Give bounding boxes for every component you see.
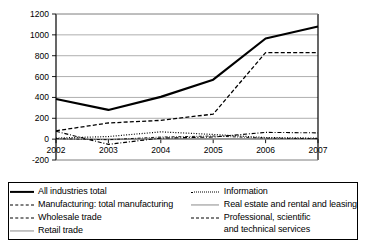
legend-label: Retail trade [38,225,83,237]
legend-swatch-gray-solid-icon [9,225,35,237]
chart-legend: All industries total Manufacturing: tota… [8,182,358,240]
legend-column-right: Information Real estate and rental and l… [190,183,357,239]
legend-item-retail-trade: Retail trade [9,225,190,238]
y-tick-label: -200 [32,155,49,165]
legend-label: All industries total [38,186,107,198]
y-tick-label: 800 [35,51,49,61]
legend-label: Manufacturing: total manufacturing [38,199,173,211]
legend-item-manufacturing: Manufacturing: total manufacturing [9,199,190,212]
legend-swatch-dotted-icon [190,186,220,198]
y-tick-label: 1200 [30,9,49,19]
x-tick-label: 2003 [99,145,118,155]
series-line [56,53,318,131]
legend-label-line2: and technical services [224,224,311,236]
x-tick-label: 2004 [151,145,170,155]
legend-label: Wholesale trade [38,212,102,224]
legend-item-information: Information [190,186,357,199]
x-tick-label: 2006 [256,145,275,155]
legend-swatch-gray-solid-icon [190,199,220,211]
data-series [56,27,318,145]
y-tick-label: 200 [35,113,49,123]
legend-swatch-dashed-icon [9,212,35,224]
legend-column-left: All industries total Manufacturing: tota… [9,183,190,239]
legend-item-all-industries-total: All industries total [9,186,190,199]
line-chart: 120010008006004002000-200 20022003200420… [0,0,372,249]
y-tick-label: 400 [35,92,49,102]
legend-swatch-dash-dot-fine-icon [9,199,35,211]
y-tick-label: 600 [35,72,49,82]
legend-item-real-estate: Real estate and rental and leasing [190,199,357,212]
legend-swatch-solid-thick-icon [9,186,35,198]
y-tick-label: 1000 [30,30,49,40]
legend-label-line1: Professional, scientific [224,212,311,224]
y-tick-label: 0 [44,134,49,144]
y-axis-labels: 120010008006004002000-200 [30,9,49,165]
x-axis-labels: 200220032004200520062007 [47,145,328,155]
legend-item-professional-scientific: Professional, scientific and technical s… [190,212,357,238]
legend-swatch-dash-dot-icon [190,212,220,224]
legend-item-wholesale-trade: Wholesale trade [9,212,190,225]
x-tick-label: 2005 [204,145,223,155]
legend-label: Information [224,186,268,198]
legend-label: Real estate and rental and leasing [224,199,357,211]
